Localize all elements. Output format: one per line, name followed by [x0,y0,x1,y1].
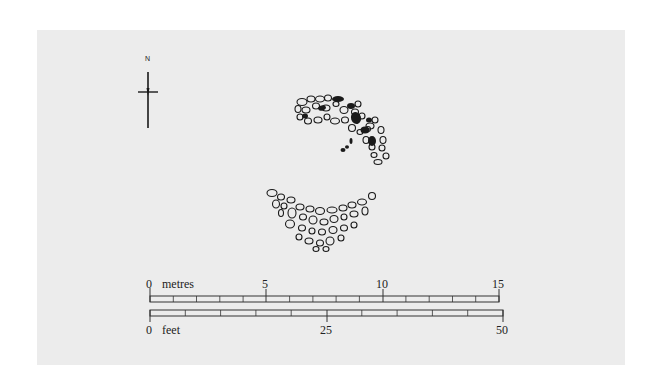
metres-tick-5: 5 [262,278,268,290]
feet-tick-0: 0 [146,324,152,336]
north-label: N [145,55,150,62]
metres-tick-15: 15 [492,278,504,290]
curved-stone-setting-north [295,95,389,165]
feet-tick-50: 50 [496,324,508,336]
metres-unit-label: metres [162,278,194,290]
small-stones [341,138,353,152]
metres-tick-0: 0 [146,278,152,290]
metres-tick-10: 10 [376,278,388,290]
north-arrow-icon [138,72,158,128]
feet-unit-label: feet [162,324,180,336]
scale-bar [150,288,503,322]
metres-bar [150,296,499,302]
crescent-stone-setting-south [267,190,376,252]
feet-tick-25: 25 [320,324,332,336]
